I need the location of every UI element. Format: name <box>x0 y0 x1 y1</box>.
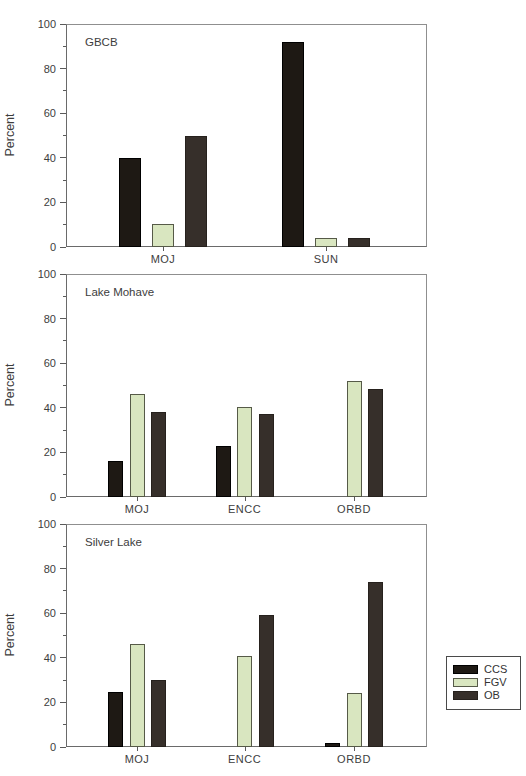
y-minor-tick <box>63 680 66 681</box>
x-category-label-orbd: ORBD <box>324 503 384 515</box>
y-tick <box>60 113 66 114</box>
bar-fgv-sun-gbcb <box>315 238 337 247</box>
y-tick-label: 40 <box>28 652 56 664</box>
y-tick <box>60 68 66 69</box>
x-category-label-encc: ENCC <box>215 503 275 515</box>
y-tick <box>60 747 66 748</box>
y-minor-tick <box>63 340 66 341</box>
panel-title-silver-lake: Silver Lake <box>85 536 142 548</box>
y-minor-tick <box>63 135 66 136</box>
y-tick-label: 60 <box>28 357 56 369</box>
bar-fgv-orbd-lake-mohave <box>347 381 362 497</box>
bar-fgv-orbd-silver-lake <box>347 693 362 747</box>
y-tick <box>60 452 66 453</box>
legend-label-fgv: FGV <box>484 677 507 688</box>
bar-ccs-moj-silver-lake <box>108 692 123 747</box>
y-axis-label-gbcb: Percent <box>3 85 17 185</box>
bar-fgv-encc-silver-lake <box>237 656 252 747</box>
legend-label-ccs: CCS <box>484 664 507 675</box>
x-category-label-sun: SUN <box>296 253 356 265</box>
y-tick-label: 60 <box>28 607 56 619</box>
bar-ob-moj-silver-lake <box>151 680 166 747</box>
bar-ob-moj-gbcb <box>185 136 207 248</box>
bar-ccs-sun-gbcb <box>282 42 304 247</box>
y-tick-label: 100 <box>28 518 56 530</box>
y-tick-label: 80 <box>28 313 56 325</box>
x-category-label-encc: ENCC <box>215 753 275 765</box>
y-tick <box>60 202 66 203</box>
y-tick <box>60 363 66 364</box>
bar-ccs-orbd-silver-lake <box>325 743 340 747</box>
y-tick <box>60 318 66 319</box>
bar-ob-encc-silver-lake <box>259 615 274 747</box>
bar-fgv-moj-silver-lake <box>130 644 145 747</box>
y-tick <box>60 497 66 498</box>
x-category-label-moj: MOJ <box>107 753 167 765</box>
legend-item-ob: OB <box>453 689 520 702</box>
y-tick-label: 80 <box>28 563 56 575</box>
y-minor-tick <box>63 546 66 547</box>
y-tick-label: 40 <box>28 402 56 414</box>
bar-ob-orbd-lake-mohave <box>368 389 383 497</box>
bar-fgv-moj-gbcb <box>152 224 174 247</box>
y-tick <box>60 274 66 275</box>
x-category-label-orbd: ORBD <box>324 753 384 765</box>
y-tick <box>60 613 66 614</box>
y-minor-tick <box>63 46 66 47</box>
legend-swatch-fgv <box>453 678 478 687</box>
y-tick-label: 0 <box>28 491 56 503</box>
y-tick-label: 100 <box>28 268 56 280</box>
y-tick <box>60 657 66 658</box>
legend-item-fgv: FGV <box>453 676 520 689</box>
panel-title-lake-mohave: Lake Mohave <box>85 286 154 298</box>
y-tick-label: 20 <box>28 446 56 458</box>
x-tick <box>245 747 246 751</box>
x-category-label-moj: MOJ <box>133 253 193 265</box>
y-minor-tick <box>63 224 66 225</box>
y-minor-tick <box>63 430 66 431</box>
y-tick <box>60 702 66 703</box>
x-tick <box>354 747 355 751</box>
y-tick-label: 0 <box>28 741 56 753</box>
y-tick <box>60 524 66 525</box>
legend: CCS FGV OB <box>446 656 521 710</box>
y-tick-label: 60 <box>28 107 56 119</box>
y-axis-label-silver-lake: Percent <box>3 585 17 685</box>
y-minor-tick <box>63 385 66 386</box>
bar-ccs-encc-lake-mohave <box>216 446 231 497</box>
bar-ob-sun-gbcb <box>348 238 370 247</box>
y-tick-label: 0 <box>28 241 56 253</box>
y-tick-label: 40 <box>28 152 56 164</box>
x-tick <box>137 747 138 751</box>
bar-ob-orbd-silver-lake <box>368 582 383 747</box>
y-tick <box>60 24 66 25</box>
bar-ccs-moj-gbcb <box>119 158 141 247</box>
y-minor-tick <box>63 635 66 636</box>
y-tick <box>60 407 66 408</box>
y-minor-tick <box>63 590 66 591</box>
y-minor-tick <box>63 180 66 181</box>
x-tick <box>354 497 355 501</box>
y-minor-tick <box>63 724 66 725</box>
y-tick-label: 20 <box>28 196 56 208</box>
figure: CCS FGV OB GBCB020406080100PercentMOJSUN… <box>0 0 526 776</box>
y-tick-label: 20 <box>28 696 56 708</box>
legend-label-ob: OB <box>484 690 500 701</box>
x-tick <box>245 497 246 501</box>
legend-item-ccs: CCS <box>453 663 520 676</box>
x-tick <box>137 497 138 501</box>
bar-ob-moj-lake-mohave <box>151 412 166 497</box>
y-tick-label: 80 <box>28 63 56 75</box>
y-tick-label: 100 <box>28 18 56 30</box>
y-tick <box>60 157 66 158</box>
bar-ccs-moj-lake-mohave <box>108 461 123 497</box>
x-category-label-moj: MOJ <box>107 503 167 515</box>
panel-title-gbcb: GBCB <box>85 36 118 48</box>
x-tick <box>163 247 164 251</box>
bar-fgv-encc-lake-mohave <box>237 407 252 497</box>
y-axis-label-lake-mohave: Percent <box>3 335 17 435</box>
y-tick <box>60 247 66 248</box>
y-minor-tick <box>63 474 66 475</box>
legend-swatch-ob <box>453 691 478 700</box>
y-minor-tick <box>63 296 66 297</box>
